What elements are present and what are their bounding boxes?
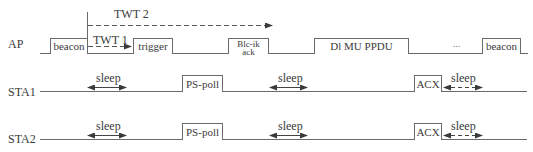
ap-frame-dl-mu-ppdu: Dl MU PPDU [314, 38, 409, 54]
frame-label-line2: ack [229, 48, 268, 56]
frame-label: PS-poll [183, 124, 222, 140]
sta1-sleep-label-3: sleep [451, 72, 476, 84]
frame-label: beacon [51, 39, 87, 54]
sta1-sleep-label-2: sleep [278, 72, 303, 84]
ap-ellipsis: ... [453, 38, 461, 50]
frame-label: PS-poll [183, 76, 222, 92]
sta1-sleep-label-1: sleep [96, 72, 121, 84]
sta2-sleep-label-1: sleep [96, 120, 121, 132]
sta2-frame-ack: ACX [414, 123, 442, 140]
frame-label: ACX [415, 76, 441, 92]
frame-label: beacon [483, 39, 520, 54]
frame-label: Dl MU PPDU [315, 39, 408, 54]
ap-frame-trigger: trigger [133, 38, 173, 54]
sta2-frame-ps-poll: PS-poll [182, 123, 223, 140]
twt1-label: TWT 1 [93, 34, 128, 46]
ap-frame-block-ack: Blc-ik ack [228, 38, 269, 54]
twt2-label: TWT 2 [114, 8, 149, 20]
frame-label: trigger [134, 39, 172, 54]
sta2-sleep-label-3: sleep [451, 120, 476, 132]
ap-frame-beacon-next: beacon [482, 38, 521, 54]
sta1-frame-ps-poll: PS-poll [182, 75, 223, 92]
ap-frame-beacon: beacon [50, 38, 88, 54]
sta1-frame-ack: ACX [414, 75, 442, 92]
frame-label: ACX [415, 124, 441, 140]
sta2-sleep-label-2: sleep [278, 120, 303, 132]
